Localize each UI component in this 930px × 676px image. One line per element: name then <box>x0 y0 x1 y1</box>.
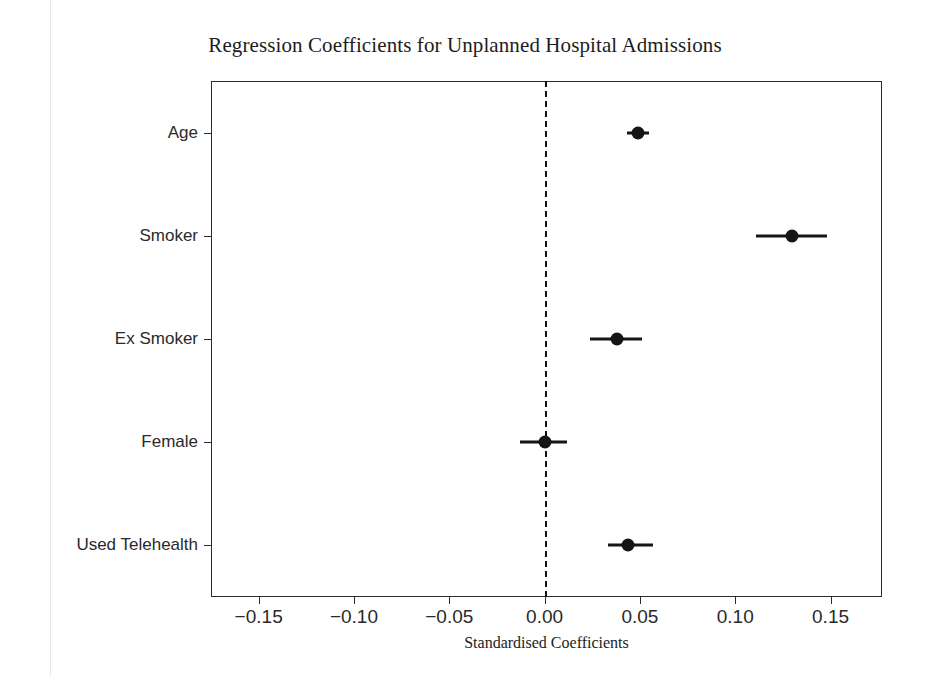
y-axis-tick-mark <box>204 545 211 546</box>
x-axis-tick-label: 0.15 <box>812 606 849 628</box>
coefficient-point-marker <box>622 539 635 552</box>
x-axis-tick-label: −0.05 <box>425 606 473 628</box>
x-axis-tick-mark <box>640 597 641 604</box>
x-axis-tick-label: 0.10 <box>717 606 754 628</box>
x-axis-tick-mark <box>735 597 736 604</box>
x-axis-tick-label: 0.05 <box>621 606 658 628</box>
y-axis-tick-label: Female <box>0 432 198 452</box>
figure-canvas: Regression Coefficients for Unplanned Ho… <box>0 0 930 676</box>
x-axis-tick-label: 0.00 <box>526 606 563 628</box>
x-axis-tick-mark <box>831 597 832 604</box>
y-axis-tick-label: Ex Smoker <box>0 329 198 349</box>
x-axis-title: Standardised Coefficients <box>211 634 882 652</box>
coefficient-point-marker <box>611 333 624 346</box>
y-axis-tick-label: Smoker <box>0 226 198 246</box>
y-axis-tick-label: Age <box>0 123 198 143</box>
x-axis-tick-mark <box>545 597 546 604</box>
plot-area <box>211 81 882 597</box>
y-axis-tick-mark <box>204 442 211 443</box>
chart-title: Regression Coefficients for Unplanned Ho… <box>0 33 930 58</box>
y-axis-tick-mark <box>204 133 211 134</box>
x-axis-tick-mark <box>449 597 450 604</box>
y-axis-tick-label: Used Telehealth <box>0 535 198 555</box>
coefficient-point-marker <box>632 126 645 139</box>
x-axis-tick-mark <box>354 597 355 604</box>
coefficient-point-marker <box>786 229 799 242</box>
y-axis-tick-mark <box>204 339 211 340</box>
x-axis-tick-mark <box>259 597 260 604</box>
x-axis-tick-label: −0.15 <box>235 606 283 628</box>
x-axis-tick-label: −0.10 <box>330 606 378 628</box>
zero-reference-line <box>545 81 547 597</box>
coefficient-point-marker <box>538 436 551 449</box>
y-axis-tick-mark <box>204 236 211 237</box>
